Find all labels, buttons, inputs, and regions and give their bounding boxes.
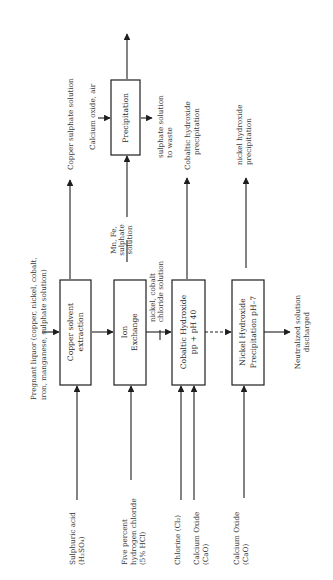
svg-text:(H₂SO₄): (H₂SO₄) bbox=[77, 536, 86, 565]
svg-text:Ion: Ion bbox=[120, 326, 129, 339]
svg-text:Calcium oxide, air: Calcium oxide, air bbox=[88, 83, 97, 150]
svg-text:Sulphuric acid: Sulphuric acid bbox=[68, 512, 77, 565]
label-calcium-oxide-2: Calcium Oxide (CaO) bbox=[232, 512, 250, 565]
box-precipitation: Precipitation bbox=[111, 80, 140, 155]
svg-text:Precipitation: Precipitation bbox=[121, 93, 130, 143]
svg-text:pp + pH 40: pp + pH 40 bbox=[189, 310, 198, 355]
label-sulphate-to-waste: sulphate solution to waste bbox=[156, 95, 174, 158]
svg-text:extraction: extraction bbox=[76, 312, 85, 351]
svg-text:Chlorine (Cl₂): Chlorine (Cl₂) bbox=[173, 515, 182, 565]
svg-text:Cobaltic hydroxide: Cobaltic hydroxide bbox=[183, 101, 192, 170]
label-nickel-precipitation: nickel hydroxide precipitation bbox=[235, 105, 253, 165]
svg-text:Neutralized solution: Neutralized solution bbox=[293, 294, 302, 369]
svg-text:to waste: to waste bbox=[165, 127, 174, 158]
process-flow-diagram: Pregnant liquor (copper, nickel, cobalt,… bbox=[0, 0, 333, 580]
svg-text:Pregnant liquor (copper, nicke: Pregnant liquor (copper, nickel, cobalt, bbox=[29, 257, 38, 400]
svg-text:(CaO): (CaO) bbox=[241, 544, 250, 565]
svg-text:Copper solvent: Copper solvent bbox=[66, 303, 75, 361]
svg-text:iron, manganese, sulphate solu: iron, manganese, sulphate solution) bbox=[39, 269, 48, 400]
svg-text:(CaO): (CaO) bbox=[201, 544, 210, 565]
svg-text:nickel hydroxide: nickel hydroxide bbox=[235, 105, 244, 165]
svg-text:Nickel Hydroxide: Nickel Hydroxide bbox=[238, 298, 247, 366]
svg-text:precipitation: precipitation bbox=[244, 118, 253, 165]
label-hydrogen-chloride: Five percent hydrogen chloride (5% HCl) bbox=[120, 498, 147, 565]
box-copper-solvent-extraction: Copper solvent extraction bbox=[60, 280, 91, 385]
label-calcium-oxide-air: Calcium oxide, air bbox=[88, 83, 97, 150]
label-calcium-oxide-1: Calcium Oxide (CaO) bbox=[192, 512, 210, 565]
svg-text:Calcium Oxide: Calcium Oxide bbox=[192, 512, 201, 565]
label-chlorine: Chlorine (Cl₂) bbox=[173, 515, 182, 565]
svg-text:(5% HCl): (5% HCl) bbox=[138, 531, 147, 565]
svg-text:hydrogen chloride: hydrogen chloride bbox=[129, 498, 138, 565]
svg-text:Cobaltic Hydroxide: Cobaltic Hydroxide bbox=[179, 294, 188, 369]
label-nickel-cobalt-chloride: nickel, cobalt chloride solution bbox=[148, 260, 165, 322]
svg-text:precipitation: precipitation bbox=[192, 108, 201, 155]
box-cobaltic-hydroxide: Cobaltic Hydroxide pp + pH 40 bbox=[172, 280, 205, 385]
box-ion-exchange: Ion Exchange bbox=[114, 280, 146, 385]
svg-text:Calcium Oxide: Calcium Oxide bbox=[232, 512, 241, 565]
svg-text:solution: solution bbox=[125, 225, 134, 254]
svg-text:Precipitation pH–7: Precipitation pH–7 bbox=[249, 296, 258, 368]
label-cobaltic-precipitation: Cobaltic hydroxide precipitation bbox=[183, 101, 201, 170]
svg-text:Exchange: Exchange bbox=[130, 313, 139, 351]
svg-text:Copper sulphate solution: Copper sulphate solution bbox=[66, 78, 75, 170]
svg-text:Five percent: Five percent bbox=[120, 519, 129, 565]
label-mnfe-sulphate: Mn, Fe, sulphate solution bbox=[109, 224, 134, 255]
svg-text:chloride solution: chloride solution bbox=[156, 260, 165, 322]
svg-text:sulphate solution: sulphate solution bbox=[156, 95, 165, 158]
svg-text:discharged: discharged bbox=[302, 311, 311, 352]
feed-label: Pregnant liquor (copper, nickel, cobalt,… bbox=[29, 257, 48, 400]
box-nickel-hydroxide: Nickel Hydroxide Precipitation pH–7 bbox=[232, 280, 264, 385]
label-neutralized-discharged: Neutralized solution discharged bbox=[293, 294, 311, 369]
label-copper-sulphate: Copper sulphate solution bbox=[66, 78, 75, 170]
label-sulphuric-acid: Sulphuric acid (H₂SO₄) bbox=[68, 512, 86, 565]
